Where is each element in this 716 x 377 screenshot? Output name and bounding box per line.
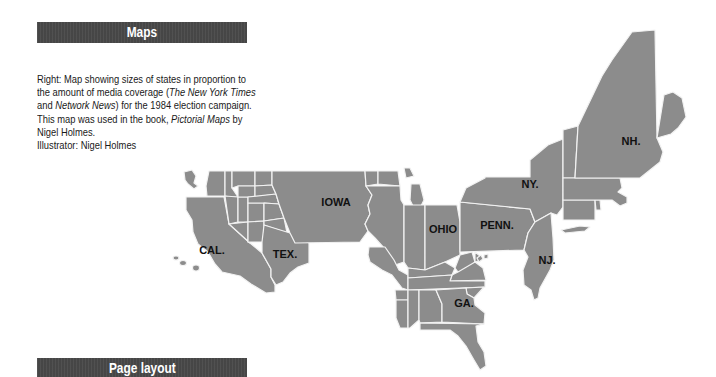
media-coverage-map: CAL. TEX. IOWA OHIO PENN. NY. NJ. GA. NH… [0, 0, 716, 377]
state-mississippi [408, 290, 419, 328]
state-colorado [248, 203, 264, 222]
label-penn: PENN. [480, 219, 514, 231]
label-iowa: IOWA [321, 196, 350, 208]
state-michigan-up [404, 168, 414, 178]
label-tex: TEX. [273, 248, 297, 260]
label-nh: NH. [622, 135, 641, 147]
state-long-island [561, 226, 590, 233]
state-utah [238, 197, 248, 222]
page-layout-section-header: Page layout [37, 358, 247, 377]
state-indiana [404, 205, 425, 270]
cartogram-svg: CAL. TEX. IOWA OHIO PENN. NY. NJ. GA. NH… [0, 0, 716, 377]
state-minnesota [365, 171, 378, 186]
state-md-islands [484, 254, 488, 259]
state-wyoming [238, 186, 255, 197]
state-maine [657, 92, 686, 138]
state-wisconsin [378, 171, 400, 186]
page-layout-section-title: Page layout [109, 358, 176, 377]
label-ga: GA. [454, 297, 474, 309]
state-rhode-island [595, 200, 601, 210]
label-ohio: OHIO [429, 223, 458, 235]
state-louisiana [396, 300, 408, 328]
state-florida [420, 323, 486, 370]
label-nj: NJ. [538, 254, 555, 266]
state-new-hampshire [575, 30, 663, 178]
state-connecticut [563, 200, 595, 220]
washington-island [184, 170, 198, 189]
state-n-dakota [255, 171, 272, 186]
state-oregon [206, 171, 225, 196]
label-ny: NY. [521, 178, 538, 190]
label-cal: CAL. [199, 244, 225, 256]
state-new-mexico [248, 221, 264, 242]
state-ohio [425, 205, 460, 270]
state-arkansas [395, 290, 408, 300]
